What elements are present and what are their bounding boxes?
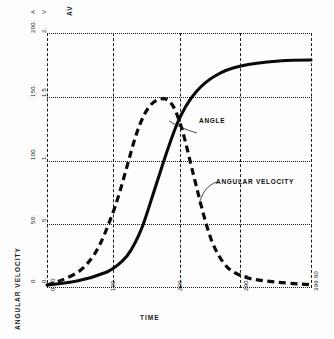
annotation-label-angular-velocity: ANGULAR VELOCITY xyxy=(216,178,294,185)
y-tick-a-150: 150. xyxy=(30,84,36,97)
y-tick-a-0: 0. xyxy=(30,277,36,283)
y-tick-a-200: 200. xyxy=(30,20,36,33)
chart-corner-label-av: AV xyxy=(66,5,73,16)
chart-figure: A V AV 200. 2. 150. 1.5 100. 1. 50. .5 0… xyxy=(0,0,334,339)
curves-svg xyxy=(47,33,312,288)
y-tick-a-100: 100. xyxy=(30,147,36,160)
y-axis-right-name-velocity: V xyxy=(41,10,47,14)
plot-area xyxy=(47,33,312,288)
series-angle-path xyxy=(47,60,311,285)
y-axis-left-name-angle: A xyxy=(30,10,36,14)
annotation-label-angle: ANGLE xyxy=(199,117,225,124)
x-tick-399: 399.80 xyxy=(313,271,319,291)
y-axis-title: ANGULAR VELOCITY xyxy=(14,247,21,330)
y-tick-a-50: 50. xyxy=(30,215,36,224)
x-axis-title: TIME xyxy=(140,314,160,321)
